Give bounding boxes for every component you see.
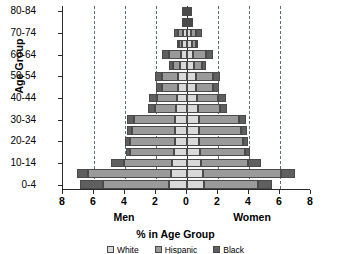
women-side-label: Women <box>217 211 287 223</box>
bar-segment <box>220 104 227 113</box>
bar-row <box>63 169 310 178</box>
y-axis-tick-mark <box>58 120 62 121</box>
legend-item: Black <box>213 246 244 254</box>
y-axis-tick-label: 30-34 <box>0 114 36 125</box>
bar-segment <box>77 169 88 178</box>
bar-segment <box>197 94 218 103</box>
bar-segment <box>241 126 246 135</box>
bar-segment <box>162 72 178 81</box>
bar-row <box>63 115 310 124</box>
x-axis-tick-mark <box>217 190 218 194</box>
bar-segment <box>149 94 157 103</box>
bar-segment <box>126 148 130 157</box>
bar-segment <box>127 115 133 124</box>
bar-segment <box>162 50 169 59</box>
bar-segment <box>175 137 187 146</box>
bar-segment <box>174 29 179 38</box>
x-axis-tick-label: 2 <box>143 195 167 207</box>
bar-segment <box>175 115 187 124</box>
bar-segment <box>175 126 187 135</box>
x-axis-tick-mark <box>279 190 280 194</box>
bar-segment <box>187 83 196 92</box>
bar-segment <box>213 83 219 92</box>
bar-segment <box>174 148 187 157</box>
bar-segment <box>206 50 213 59</box>
bar-segment <box>172 159 187 168</box>
x-axis-tick-mark <box>248 190 249 194</box>
bar-segment <box>281 169 296 178</box>
bar-segment <box>245 148 250 157</box>
bar-segment <box>171 169 187 178</box>
legend-swatch <box>155 246 162 253</box>
y-axis-tick-label: 50-54 <box>0 70 36 81</box>
y-axis-tick-mark <box>58 11 62 12</box>
y-axis-tick-label: 20-24 <box>0 135 36 146</box>
bar-segment <box>248 159 260 168</box>
x-axis-tick-label: 2 <box>205 195 229 207</box>
bar-segment <box>204 180 257 189</box>
x-axis-tick-label: 8 <box>298 195 322 207</box>
bar-row <box>63 83 310 92</box>
men-side-label: Men <box>89 211 159 223</box>
bar-segment <box>187 104 198 113</box>
bar-segment <box>156 83 162 92</box>
bar-segment <box>177 40 179 49</box>
bar-segment <box>103 180 169 189</box>
bar-segment <box>169 50 181 59</box>
chart-legend: WhiteHispanicBlack <box>0 246 351 254</box>
bar-segment <box>162 83 178 92</box>
bar-segment <box>80 180 103 189</box>
y-axis-tick-mark <box>58 98 62 99</box>
bar-segment <box>125 137 130 146</box>
bar-segment <box>182 18 184 27</box>
bar-segment <box>176 104 187 113</box>
bar-segment <box>134 115 175 124</box>
plot-area <box>62 6 310 190</box>
bar-row <box>63 148 310 157</box>
y-axis-tick-label: 0-4 <box>0 179 36 190</box>
bar-segment <box>196 83 212 92</box>
bar-row <box>63 18 310 27</box>
y-axis-tick-mark <box>58 185 62 186</box>
bar-row <box>63 104 310 113</box>
bar-segment <box>258 180 273 189</box>
bar-segment <box>178 83 187 92</box>
bar-segment <box>130 137 175 146</box>
bar-segment <box>187 61 194 70</box>
bar-segment <box>201 159 248 168</box>
bar-segment <box>157 94 177 103</box>
bar-segment <box>155 104 176 113</box>
legend-swatch <box>213 246 220 253</box>
bar-row <box>63 50 310 59</box>
bar-segment <box>187 159 201 168</box>
bar-segment <box>199 115 239 124</box>
bar-segment <box>187 169 203 178</box>
plot-inner <box>63 6 310 189</box>
x-axis-tick-label: 4 <box>236 195 260 207</box>
x-axis-tick-mark <box>186 190 187 194</box>
bar-segment <box>187 115 199 124</box>
bar-segment <box>177 94 187 103</box>
legend-item: Hispanic <box>155 246 198 254</box>
bar-segment <box>213 72 221 81</box>
bar-segment <box>173 61 180 70</box>
x-axis-tick-label: 4 <box>112 195 136 207</box>
legend-item: White <box>107 246 139 254</box>
x-axis-tick-label: 6 <box>81 195 105 207</box>
x-axis-tick-mark <box>62 190 63 194</box>
bar-segment <box>111 159 124 168</box>
bar-segment <box>203 169 281 178</box>
bar-segment <box>187 137 199 146</box>
bar-segment <box>239 115 246 124</box>
y-axis-tick-label: 10-14 <box>0 157 36 168</box>
y-axis-tick-mark <box>58 163 62 164</box>
bar-segment <box>178 72 187 81</box>
x-axis-tick-label: 6 <box>267 195 291 207</box>
x-axis-tick-mark <box>93 190 94 194</box>
bar-segment <box>178 29 183 38</box>
bar-segment <box>187 180 204 189</box>
bar-segment <box>155 72 162 81</box>
bar-segment <box>199 126 241 135</box>
bar-segment <box>202 61 206 70</box>
x-axis-tick-mark <box>155 190 156 194</box>
